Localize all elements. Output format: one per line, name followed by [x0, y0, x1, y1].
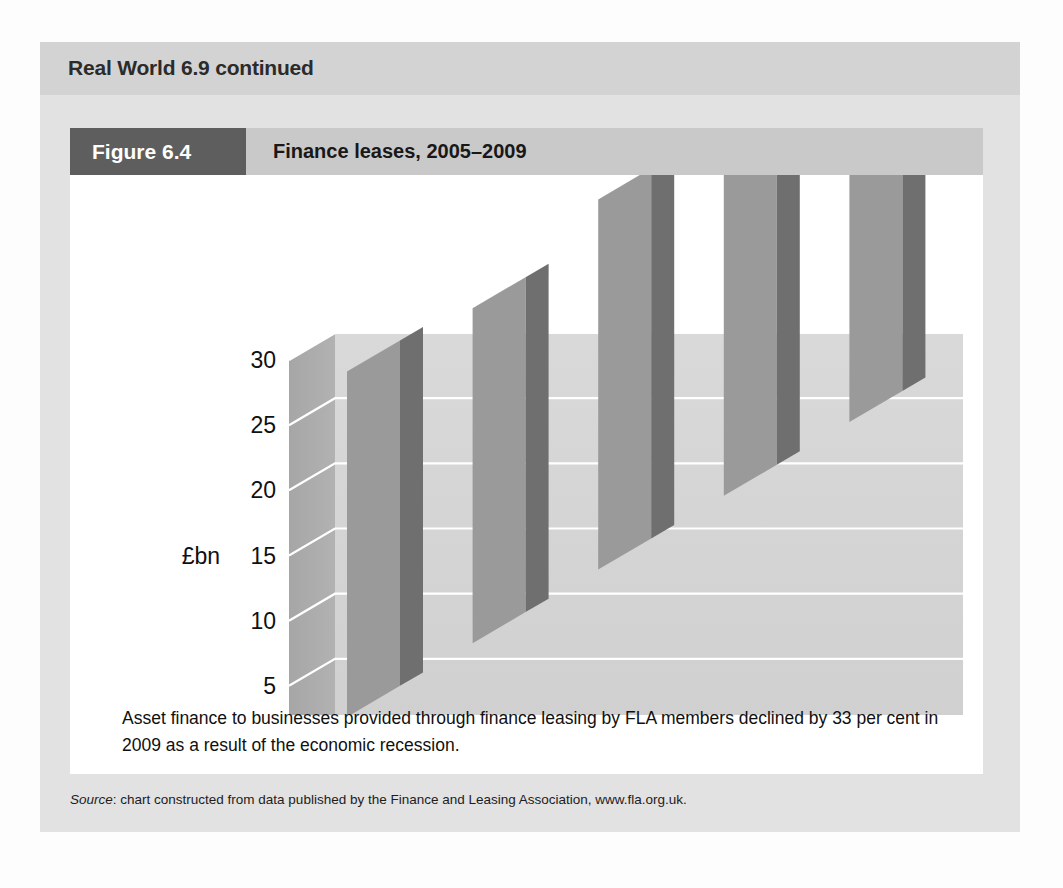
source-text: : chart constructed from data published …	[113, 792, 687, 807]
finance-leases-bar-chart: 0 5 10 15 20 25 30 £bn 2005 2006 2007 20…	[70, 175, 983, 715]
y-tick-15: 15	[250, 543, 276, 569]
bar-2006[interactable]	[473, 264, 549, 643]
bar-2005[interactable]	[347, 327, 423, 715]
source-prefix: Source	[70, 792, 113, 807]
real-world-header-band: Real World 6.9 continued	[40, 42, 1020, 95]
y-tick-25: 25	[250, 412, 276, 438]
chart-left-wall	[289, 333, 335, 715]
figure-source-line: Source: chart constructed from data publ…	[70, 792, 687, 807]
y-tick-10: 10	[250, 608, 276, 634]
y-axis-tick-labels: 0 5 10 15 20 25 30	[250, 347, 276, 715]
bar-2008[interactable]	[724, 175, 800, 496]
y-tick-5: 5	[263, 673, 276, 699]
figure-title: Finance leases, 2005–2009	[273, 140, 527, 163]
figure-caption: Asset finance to businesses provided thr…	[122, 705, 947, 759]
bar-2007[interactable]	[598, 175, 674, 570]
figure-header-band: Figure 6.4 Finance leases, 2005–2009	[70, 128, 983, 175]
y-tick-20: 20	[250, 477, 276, 503]
chart-plot-area: 0 5 10 15 20 25 30 £bn 2005 2006 2007 20…	[70, 175, 983, 715]
figure-card: Figure 6.4 Finance leases, 2005–2009	[70, 128, 983, 774]
y-axis-title: £bn	[182, 543, 220, 569]
real-world-title: Real World 6.9 continued	[68, 56, 314, 80]
figure-number-tag: Figure 6.4	[70, 128, 246, 175]
real-world-panel: Real World 6.9 continued Figure 6.4 Fina…	[40, 42, 1020, 832]
y-tick-30: 30	[250, 347, 276, 373]
